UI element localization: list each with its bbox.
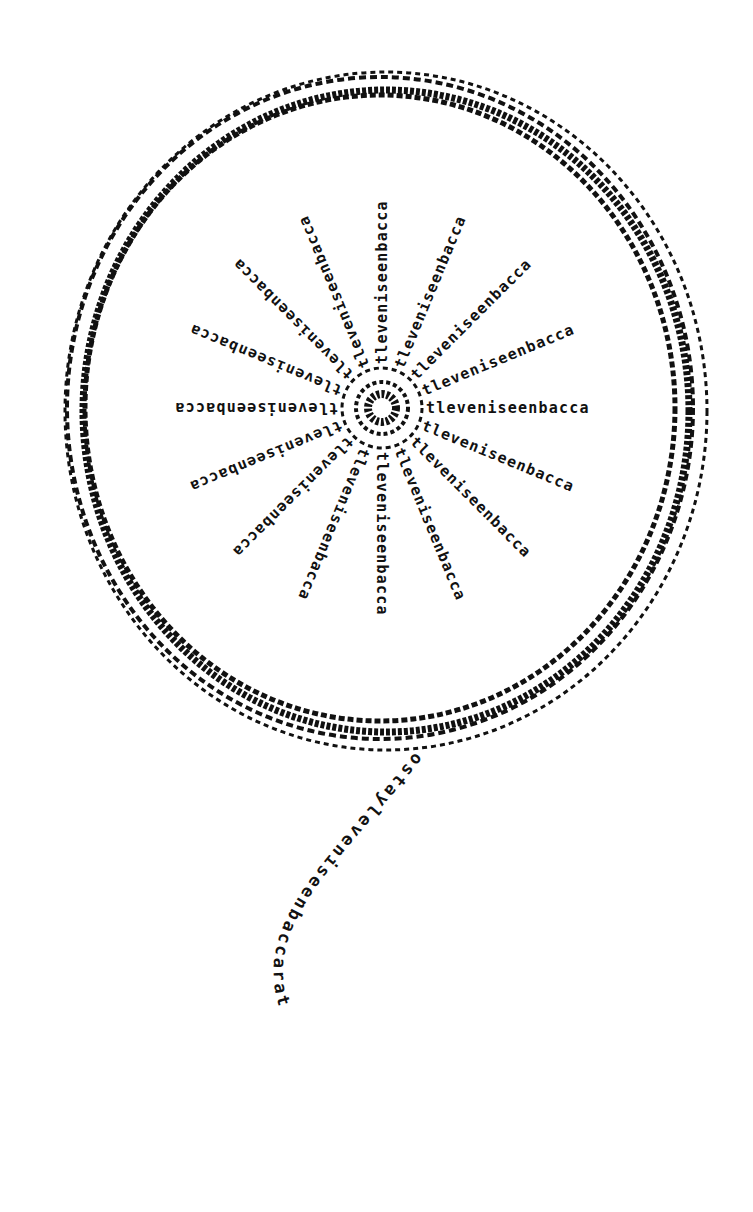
wheel-spokes: tleveniseenbaccatleveniseenbaccatlevenis… (174, 200, 589, 615)
tail-text-path: ostayleveniseenbaccarat (269, 750, 427, 1011)
wheel-rim (65, 72, 707, 750)
spoke-text: tleveniseenbacca (373, 200, 391, 364)
tail-text: ostayleveniseenbaccarat (269, 750, 427, 1011)
spoke-text: tleveniseenbacca (419, 320, 577, 399)
spoke-text: tleveniseenbacca (174, 399, 338, 417)
concrete-poem-wheel: tleveniseenbaccatleveniseenbaccatlevenis… (0, 0, 753, 1212)
spoke-text: tleveniseenbacca (373, 452, 391, 616)
spoke-text: tleveniseenbacca (294, 213, 373, 371)
spoke-text: tleveniseenbacca (187, 417, 345, 496)
spoke-text: tleveniseenbacca (426, 399, 590, 417)
spoke-text: tleveniseenbacca (391, 445, 470, 603)
wheel-hub (342, 368, 422, 448)
